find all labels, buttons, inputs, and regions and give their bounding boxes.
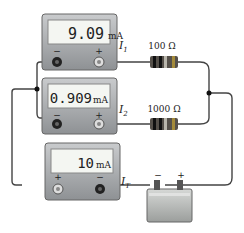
battery-pos-label: + — [177, 170, 185, 180]
terminal-neg-label: − — [96, 172, 104, 182]
battery-pos-terminal-icon — [177, 180, 183, 190]
terminal-pos-label: + — [54, 172, 62, 182]
resistor-100-ohm: 100 Ω — [148, 41, 178, 68]
resistor-1000-ohm: 1000 Ω — [147, 104, 180, 130]
current-label-it: IT — [120, 175, 131, 190]
battery-neg-label: − — [154, 170, 162, 180]
battery-neg-terminal-icon — [154, 180, 160, 190]
current-label-i1: I1 — [118, 39, 128, 54]
resistor-2-label: 1000 Ω — [147, 104, 180, 114]
ammeter-total-reading: 10 — [77, 155, 94, 171]
terminal-pos-label: + — [95, 46, 103, 56]
ammeter-2: 0.909 mA − + I2 — [42, 78, 128, 134]
ammeter-2-unit: mA — [93, 95, 109, 105]
junction-node-right — [207, 91, 212, 96]
current-label-i2: I2 — [118, 103, 128, 118]
ammeter-total: 10 mA + − IT — [45, 143, 131, 200]
resistor-1-label: 100 Ω — [148, 41, 176, 51]
ammeter-1-reading: 9.09 — [68, 25, 104, 43]
terminal-neg-label: − — [53, 46, 61, 56]
ammeter-2-reading: 0.909 — [50, 90, 92, 106]
ammeter-1: 9.09 mA − + I1 — [42, 14, 128, 70]
ammeter-total-unit: mA — [96, 160, 112, 170]
circuit-diagram: 9.09 mA − + I1 0.909 mA − + I2 10 mA + −… — [0, 0, 244, 233]
junction-node-left — [35, 87, 40, 92]
battery: − + — [147, 170, 192, 222]
terminal-neg-label: − — [53, 110, 61, 120]
